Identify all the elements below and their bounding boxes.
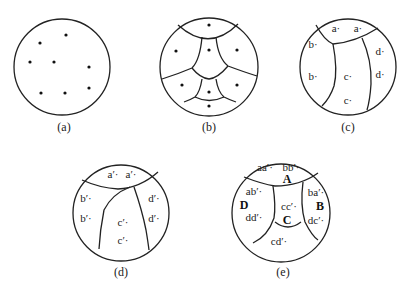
- label-cd: cd′·: [271, 235, 287, 247]
- figure: (a) (b) a· a· b· b· c· c·: [0, 0, 408, 290]
- label-d: d·: [375, 45, 384, 57]
- label-b: b·: [308, 38, 317, 50]
- seed-points: [174, 23, 238, 107]
- label-ba: ba′·: [308, 186, 324, 198]
- point: [207, 90, 210, 93]
- point: [207, 104, 210, 107]
- label-dc: dc′·: [308, 214, 324, 226]
- point: [38, 41, 41, 44]
- point: [52, 60, 55, 63]
- point: [28, 60, 31, 63]
- label-b-prime: b′·: [80, 212, 92, 224]
- panel-b: (b): [160, 18, 258, 134]
- point: [207, 23, 210, 26]
- label-region-A: A: [283, 172, 292, 186]
- point: [39, 91, 42, 94]
- point: [235, 83, 238, 86]
- label-ab: ab′·: [246, 185, 262, 197]
- region-boundary: [316, 25, 378, 44]
- point: [87, 86, 90, 89]
- label-a-prime: a′·: [108, 168, 119, 180]
- point: [87, 65, 90, 68]
- circle-a: [14, 19, 110, 115]
- label-c-prime: c′·: [118, 216, 129, 228]
- label-a-prime: a′·: [126, 168, 137, 180]
- label-b: b·: [308, 70, 317, 82]
- point: [64, 33, 67, 36]
- label-region-D: D: [240, 198, 249, 212]
- circle-b: [160, 18, 258, 116]
- region-boundary: [82, 172, 158, 189]
- label-a: a·: [332, 22, 341, 34]
- label-d-prime: d′·: [148, 212, 160, 224]
- point: [235, 48, 238, 51]
- region-boundary: [192, 66, 228, 79]
- points: [28, 33, 90, 94]
- region-boundary: [195, 97, 224, 101]
- caption-c: (c): [341, 120, 354, 134]
- label-aa: aa′·: [257, 161, 273, 173]
- point: [180, 83, 183, 86]
- label-c: c·: [344, 94, 353, 106]
- caption-e: (e): [276, 265, 289, 279]
- region-boundary: [322, 44, 336, 106]
- label-c: c·: [344, 70, 353, 82]
- panel-d: a′· a′· b′· b′· c′· c′· d′· d′· (d): [73, 165, 169, 279]
- label-d-prime: d′·: [148, 192, 160, 204]
- label-c-prime: c′·: [118, 234, 129, 246]
- panel-c: a· a· b· b· c· c· d· d· (c): [300, 19, 396, 134]
- point: [207, 48, 210, 51]
- caption-d: (d): [114, 265, 128, 279]
- panel-a: (a): [14, 19, 110, 134]
- label-cc: cc′·: [281, 200, 297, 212]
- region-boundary: [216, 37, 257, 76]
- region-boundary: [362, 38, 371, 110]
- point: [174, 49, 177, 52]
- label-b-prime: b′·: [80, 192, 92, 204]
- label-a: a·: [354, 22, 363, 34]
- label-region-B: B: [316, 199, 324, 213]
- caption-b: (b): [202, 120, 216, 134]
- point: [63, 91, 66, 94]
- region-boundary: [134, 187, 149, 250]
- label-dd: dd′·: [245, 211, 262, 223]
- label-region-C: C: [283, 213, 292, 227]
- label-d: d·: [375, 68, 384, 80]
- panel-e: aa′· bb′· A ab′· D dd′· cc′· C ba′· B dc…: [232, 161, 330, 279]
- caption-a: (a): [57, 120, 70, 134]
